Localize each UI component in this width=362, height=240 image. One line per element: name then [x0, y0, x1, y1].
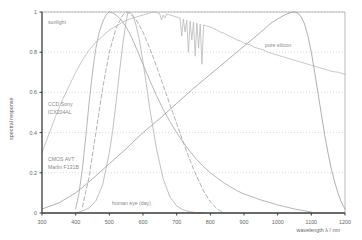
x-tick-label: 900 — [240, 219, 249, 225]
series-label-cmos-line2: Marlin F131B — [48, 164, 79, 170]
series-label-pure-silicon: pure silicon — [265, 42, 291, 48]
series-label-ccd-line1: CCD Sony — [48, 101, 73, 107]
y-tick-label: 1 — [34, 9, 37, 15]
y-tick-label: 0.8 — [30, 49, 38, 55]
x-tick-label: 300 — [38, 219, 47, 225]
y-tick-label: 0.6 — [30, 89, 38, 95]
spectral-response-chart: 00.20.40.60.8130040050060070080090010001… — [0, 0, 362, 240]
chart-canvas: 00.20.40.60.8130040050060070080090010001… — [0, 0, 362, 240]
x-tick-label: 1200 — [339, 219, 351, 225]
x-tick-label: 800 — [206, 219, 215, 225]
x-tick-label: 1100 — [306, 219, 318, 225]
x-tick-label: 700 — [172, 219, 181, 225]
y-axis-title: spectral response — [8, 97, 14, 140]
y-tick-label: 0.2 — [30, 170, 38, 176]
series-label-ccd-line2: ICX204AL — [48, 109, 72, 115]
series-label-sunlight: sunlight — [48, 19, 66, 25]
series-label-cmos-line1: CMOS AVT — [48, 156, 75, 162]
series-label-human-eye: human eye (day) — [112, 200, 151, 206]
x-tick-label: 400 — [71, 219, 80, 225]
x-tick-label: 600 — [139, 219, 148, 225]
y-tick-label: 0 — [34, 210, 37, 216]
y-tick-label: 0.4 — [30, 130, 38, 136]
x-tick-label: 500 — [105, 219, 114, 225]
x-axis-title: wavelength λ / nm — [296, 227, 341, 233]
x-tick-label: 1000 — [272, 219, 284, 225]
